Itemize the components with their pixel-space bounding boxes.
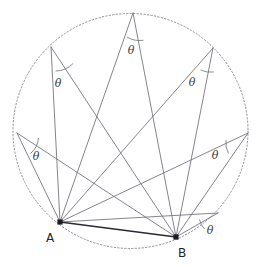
angle-label-p4: θ bbox=[33, 150, 40, 163]
angle-label-p3: θ bbox=[189, 76, 196, 89]
ray-p2-to-a bbox=[60, 13, 133, 222]
ray-p2-to-b bbox=[133, 13, 176, 237]
ray-p4-to-a bbox=[17, 133, 60, 222]
chord-ab bbox=[60, 222, 176, 237]
angle-arc-p3 bbox=[201, 70, 214, 72]
angle-label-p1: θ bbox=[55, 77, 62, 90]
inscribed-angle-svg: θ θ θ θ θ θ A B bbox=[0, 0, 259, 267]
vertex-dot-a bbox=[57, 219, 62, 224]
angle-arc-p2 bbox=[127, 37, 144, 41]
ray-p1-to-b bbox=[51, 47, 176, 237]
ray-p5-to-a bbox=[60, 133, 248, 222]
point-label-b: B bbox=[178, 246, 186, 260]
ray-p3-to-a bbox=[60, 48, 213, 222]
ray-p4-to-b bbox=[17, 133, 176, 237]
ray-p1-to-a bbox=[51, 47, 60, 222]
geometry-figure: θ θ θ θ θ θ A B bbox=[0, 0, 259, 267]
angle-arc-group bbox=[31, 37, 229, 229]
vertex-dot-b bbox=[173, 234, 178, 239]
angle-label-p6: θ bbox=[207, 224, 214, 237]
point-label-a: A bbox=[46, 231, 55, 245]
angle-label-p2: θ bbox=[128, 44, 135, 57]
ray-p6-to-a bbox=[60, 213, 218, 222]
angle-label-p5: θ bbox=[212, 149, 219, 162]
